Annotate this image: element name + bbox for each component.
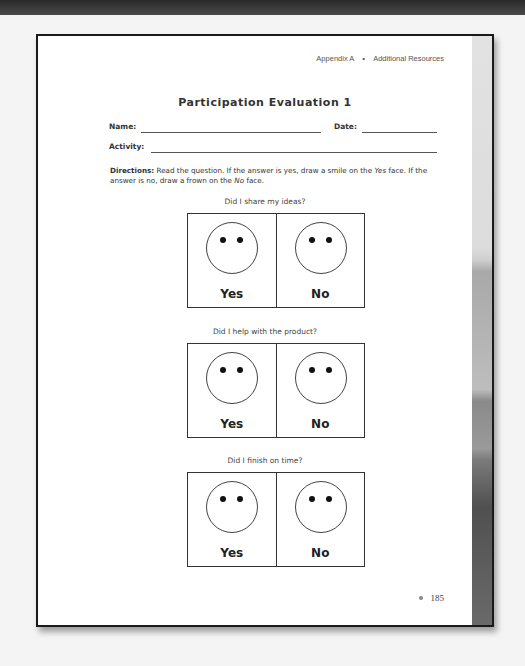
no-cell[interactable]: No (276, 473, 365, 566)
yes-label: Yes (188, 546, 276, 560)
directions-label: Directions: (110, 166, 154, 175)
header-subsection: Additional Resources (373, 54, 444, 63)
yes-cell[interactable]: Yes (188, 473, 276, 566)
question-3-text: Did I finish on time? (38, 456, 492, 465)
page-number: 185 (419, 593, 445, 603)
question-2-box: Yes No (187, 343, 365, 438)
question-1-text: Did I share my ideas? (38, 197, 492, 206)
bullet-icon (419, 596, 423, 600)
face-icon (206, 352, 258, 404)
directions-text: Directions: Read the question. If the an… (110, 166, 440, 186)
top-dark-band (0, 0, 525, 15)
activity-label: Activity: (109, 142, 144, 151)
name-label: Name: (109, 122, 136, 131)
activity-field[interactable] (151, 152, 437, 153)
question-2-text: Did I help with the product? (38, 327, 492, 336)
yes-cell[interactable]: Yes (188, 344, 276, 437)
yes-cell[interactable]: Yes (188, 214, 276, 307)
no-cell[interactable]: No (276, 344, 365, 437)
no-cell[interactable]: No (276, 214, 365, 307)
no-label: No (277, 287, 365, 301)
no-label: No (277, 546, 365, 560)
face-icon (295, 352, 347, 404)
yes-label: Yes (188, 287, 276, 301)
face-icon (295, 222, 347, 274)
question-1-box: Yes No (187, 213, 365, 308)
face-icon (295, 481, 347, 533)
date-field[interactable] (362, 132, 437, 133)
face-icon (206, 481, 258, 533)
page-number-value: 185 (431, 593, 445, 603)
question-3-box: Yes No (187, 472, 365, 567)
no-label: No (277, 417, 365, 431)
yes-label: Yes (188, 417, 276, 431)
header-section: Appendix A (316, 54, 354, 63)
document-page: Appendix A • Additional Resources Partic… (36, 34, 494, 627)
date-label: Date: (334, 122, 357, 131)
face-icon (206, 222, 258, 274)
page-title: Participation Evaluation 1 (38, 96, 492, 109)
name-field[interactable] (141, 132, 321, 133)
bullet-icon: • (362, 54, 365, 63)
running-header: Appendix A • Additional Resources (316, 54, 444, 63)
